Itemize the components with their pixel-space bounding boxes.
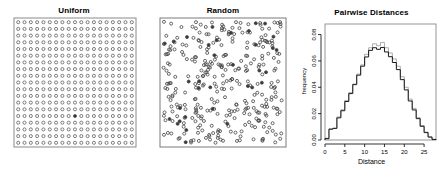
- svg-text:10: 10: [361, 149, 368, 155]
- svg-text:0.08: 0.08: [311, 28, 317, 40]
- hist-series-0: [325, 42, 436, 140]
- panel-random: Random: [148, 0, 298, 181]
- random-point-group: [162, 20, 283, 144]
- svg-text:25: 25: [421, 149, 428, 155]
- svg-text:0.06: 0.06: [311, 54, 317, 66]
- svg-text:0.04: 0.04: [311, 81, 317, 93]
- svg-text:5: 5: [343, 149, 347, 155]
- random-scatter-plot: [148, 0, 298, 181]
- panel-uniform: Uniform: [0, 0, 148, 181]
- hist-y-axis-label: frequency: [301, 51, 307, 111]
- panel-pairwise-distances: Pairwise Distances 05101520250.000.020.0…: [298, 0, 445, 181]
- hist-x-axis-label: Distance: [298, 158, 445, 165]
- svg-text:15: 15: [381, 149, 388, 155]
- svg-text:0.00: 0.00: [311, 134, 317, 146]
- svg-text:0.02: 0.02: [311, 107, 317, 119]
- multi-panel-figure: Uniform Random Pairwise Distances 051015…: [0, 0, 445, 181]
- hist-series-1: [325, 47, 436, 140]
- uniform-point-group: [17, 21, 134, 145]
- svg-text:0: 0: [323, 149, 327, 155]
- pairwise-distance-histogram: 05101520250.000.020.040.060.08: [298, 0, 445, 181]
- svg-text:20: 20: [401, 149, 408, 155]
- uniform-scatter-plot: [0, 0, 148, 181]
